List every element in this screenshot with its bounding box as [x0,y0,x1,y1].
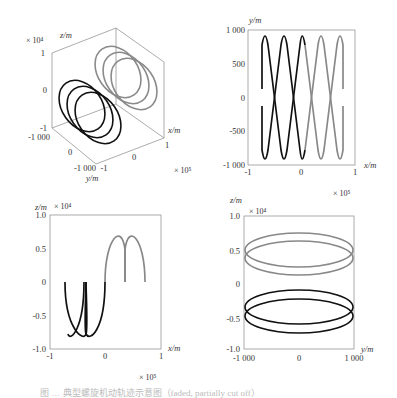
z-tick: 1 [41,48,45,58]
y-tick: 0.5 [35,244,46,254]
panel-yz-projection: z/m × 10⁴ 1.0 0.5 0 -0.5 -1.0 -1 000 0 1… [227,195,374,363]
y-tick: -1.0 [33,344,46,354]
y-tick: 0 [241,93,245,103]
y-tick: 1.0 [35,210,46,220]
y-axis-label: y/m [248,15,261,25]
helix-upper-series [86,38,167,119]
helix-lower-series [50,72,131,153]
x-multiplier: × 10⁵ [139,373,157,382]
y-tick: -1 000 [223,160,245,170]
panel-3d-trajectory: × 10⁴ z/m 1 0 -1 -1 000 0 -1 000 y/m -1 … [26,28,192,183]
x-tick: -1 000 [233,353,255,363]
gray-series [305,36,343,159]
plot-frame [244,216,354,349]
z-tick: 0 [43,85,47,95]
y-tick: -0.5 [227,314,240,324]
y-tick: 0 [42,277,46,287]
x-tick: -1 [100,163,107,173]
y-tick: 0 [68,147,72,157]
x-tick: 0 [132,152,136,162]
y-multiplier: × 10⁴ [54,202,72,211]
plot-frame [248,30,355,165]
x-tick: 0 [299,167,303,177]
y-tick: 1.0 [229,211,240,221]
dark-W-series [65,282,105,336]
x-tick: 1 [165,140,169,150]
x-axis-label: x/m [167,343,180,353]
y-tick: -0.5 [33,311,46,321]
x-axis-label: y/m [360,344,373,354]
y-multiplier: × 10⁴ [249,207,267,216]
x-multiplier: × 10⁵ [174,166,192,175]
gray-M-series [105,236,145,282]
x-multiplier: × 10⁵ [333,189,351,198]
y-axis-label: z/m [229,195,242,205]
y-axis-label: y/m [85,173,98,183]
x-axis-label: x/m [167,125,180,135]
x-tick: 0 [103,351,107,361]
x-tick: 1 [159,351,163,361]
dark-ellipse-series [245,290,353,333]
dark-series [262,36,305,159]
y-tick: -1 000 [74,163,96,173]
z-multiplier: × 10⁴ [26,36,44,45]
y-tick: 500 [232,59,245,69]
x-axis-label: x/m [363,160,376,170]
y-tick: 0.5 [229,246,240,256]
y-tick: -1 000 [28,132,50,142]
z-axis-label: z/m [59,30,72,40]
figure-caption: 图 … 典型螺旋机动轨迹示意图（faded, partially cut off… [40,386,370,398]
y-tick: 1 000 [226,25,245,35]
x-tick: 1 000 [344,353,363,363]
y-tick: -500 [229,126,245,136]
y-tick: 0 [236,279,240,289]
x-tick: 1 [353,167,357,177]
x-tick: 0 [297,353,301,363]
panel-xy-projection: y/m 1 000 500 0 -500 -1 000 -1 0 1 x/m ×… [223,15,376,198]
gray-ellipse-series [245,233,353,275]
x-tick: -1 [244,167,251,177]
panel-xz-projection: z/m × 10⁴ 1.0 0.5 0 -0.5 -1.0 -1 0 1 x/m… [33,202,181,382]
x-tick: -1 [46,351,53,361]
